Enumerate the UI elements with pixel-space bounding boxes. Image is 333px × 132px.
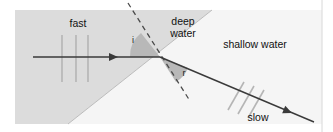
label-slow: slow [247, 111, 268, 123]
label-deep-water-line2: water [169, 27, 196, 39]
label-angle-of-refraction: r [183, 68, 186, 78]
label-fast: fast [70, 17, 87, 29]
label-angle-of-incidence: i [132, 35, 134, 45]
label-shallow-water: shallow water [223, 38, 287, 50]
label-deep-water-line1: deep [171, 15, 195, 27]
refraction-diagram-canvas: fast deep water shallow water slow i r [0, 0, 333, 132]
wave-refraction-figure: fast deep water shallow water slow i r [0, 0, 333, 132]
